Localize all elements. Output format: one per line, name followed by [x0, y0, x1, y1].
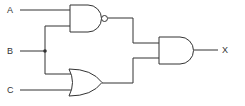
- logic-circuit-diagram: A B C X: [0, 0, 245, 106]
- wire-b-branch: [45, 26, 72, 74]
- input-label-b: B: [7, 46, 13, 56]
- or-gate-body: [69, 69, 102, 96]
- nand-gate-body: [70, 5, 102, 32]
- or-gate: [69, 69, 102, 96]
- nand-inversion-bubble: [102, 16, 108, 22]
- nand-gate: [70, 5, 108, 32]
- input-label-a: A: [7, 5, 13, 15]
- output-label-x: X: [222, 45, 228, 55]
- wire-nand-out: [108, 18, 159, 43]
- and-gate-body: [159, 37, 194, 64]
- input-label-c: C: [7, 85, 14, 95]
- and-gate: [159, 37, 194, 64]
- wire-or-out: [102, 58, 159, 83]
- junction-dot: [43, 49, 47, 53]
